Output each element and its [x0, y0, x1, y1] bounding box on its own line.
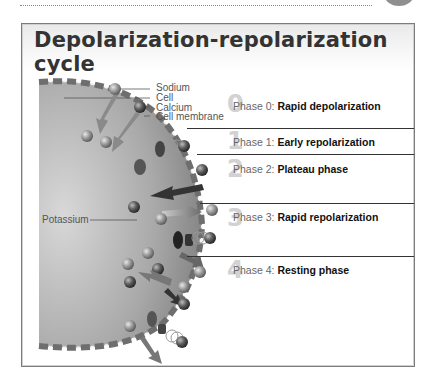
phase-3-name: Rapid repolarization [277, 211, 378, 223]
phase-4-prefix: Phase 4: [233, 264, 274, 276]
phase-4-label: Phase 4: Resting phase [233, 264, 349, 276]
page-top-dotted-rule [20, 5, 372, 6]
phase-3-label: Phase 3: Rapid repolarization [233, 211, 378, 223]
phase-2-label: Phase 2: Plateau phase [233, 163, 348, 175]
label-potassium: Potassium [42, 214, 89, 225]
phase-divider-3-4 [187, 256, 414, 257]
phase-1-name: Early repolarization [277, 136, 374, 148]
phase-4-name: Resting phase [277, 264, 349, 276]
phase-divider-0-1 [187, 128, 414, 129]
phase-3-prefix: Phase 3: [233, 211, 274, 223]
phase-2-prefix: Phase 2: [233, 163, 274, 175]
phase-0-prefix: Phase 0: [233, 100, 274, 112]
phase-0-label: Phase 0: Rapid depolarization [233, 100, 381, 112]
page-corner-tab [384, 0, 414, 6]
phase-0-name: Rapid depolarization [277, 100, 380, 112]
label-cell-membrane: Cell membrane [156, 111, 224, 122]
phase-1-prefix: Phase 1: [233, 136, 274, 148]
figure-frame: Depolarization-repolarization cycle Sodi… [21, 23, 415, 367]
phase-2-name: Plateau phase [277, 163, 348, 175]
figure-title: Depolarization-repolarization cycle [34, 28, 414, 76]
phase-1-label: Phase 1: Early repolarization [233, 136, 375, 148]
